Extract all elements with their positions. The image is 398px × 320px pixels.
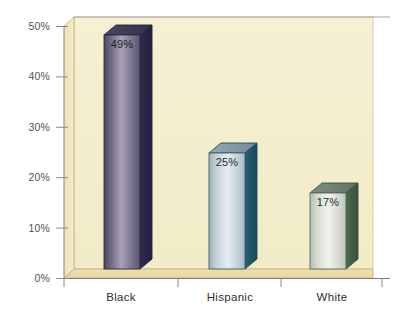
- bar-black-side: [140, 25, 152, 269]
- y-tick-label-50: 50%: [8, 20, 50, 32]
- x-category-label-black: Black: [61, 291, 181, 303]
- bar-chart: 50% 40% 30% 20% 10% 0% 49% 25% 17% Black…: [0, 0, 398, 320]
- y-tick-label-40: 40%: [8, 70, 50, 82]
- x-axis-ticks: [64, 279, 382, 288]
- bar-value-label-white: 17%: [298, 196, 358, 208]
- y-tick-label-10: 10%: [8, 222, 50, 234]
- bar-value-label-hispanic: 25%: [197, 156, 257, 168]
- bar-hispanic-front: [209, 153, 245, 269]
- plot-left-wall: [64, 17, 74, 278]
- y-tick-label-30: 30%: [8, 121, 50, 133]
- x-category-label-white: White: [272, 291, 392, 303]
- bar-black[interactable]: [104, 25, 152, 269]
- y-tick-label-0: 0%: [8, 272, 50, 284]
- plot-floor: [64, 269, 373, 278]
- bar-black-front: [104, 35, 140, 269]
- bar-value-label-black: 49%: [92, 38, 152, 50]
- y-tick-label-20: 20%: [8, 171, 50, 183]
